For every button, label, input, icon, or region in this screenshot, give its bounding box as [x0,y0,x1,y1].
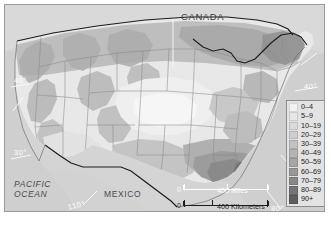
scale-km-tick-end [267,200,268,207]
scale-bars: 0 400 Miles 0 400 Kilometers [177,185,287,212]
legend-swatch [289,112,298,121]
legend-swatch [289,140,298,149]
map-graphics [5,5,324,211]
scale-km-tick-start [184,200,185,207]
legend-swatch [289,103,298,112]
map-figure: CANADA MEXICO PACIFIC OCEAN 40° 30° 40° … [0,0,331,228]
legend-swatch [289,158,298,167]
legend-swatch [289,131,298,140]
scale-miles: 0 400 Miles [177,185,287,201]
map-frame: CANADA MEXICO PACIFIC OCEAN 40° 30° 40° … [4,4,325,212]
legend-label: 60–69 [301,168,321,177]
legend-label: 90+ [301,195,313,204]
legend-row: 90+ [289,195,325,204]
scale-km-tick-mid [212,200,213,206]
legend-swatch [289,168,298,177]
legend-swatch [289,122,298,131]
legend-label: 5–9 [301,112,313,121]
legend-swatch [289,195,298,204]
legend-label: 10–19 [301,122,321,131]
legend-row: 50–59 [289,158,325,167]
legend-swatch [289,186,298,195]
scale-kilometers: 0 400 Kilometers [177,201,287,212]
scale-miles-tick-end [267,184,268,191]
scale-kilometers-zero: 0 [177,202,181,209]
legend-row: 5–9 [289,112,325,121]
scale-miles-zero: 0 [177,186,181,193]
scale-miles-tick-start [184,184,185,191]
scale-miles-label: 400 Miles [217,186,248,195]
legend-swatch [289,149,298,158]
legend-swatch [289,177,298,186]
map-legend: 0–45–910–1920–2930–3940–4950–5960–6970–7… [286,100,325,207]
legend-label: 50–59 [301,158,321,167]
scale-kilometers-label: 400 Kilometers [217,202,265,211]
